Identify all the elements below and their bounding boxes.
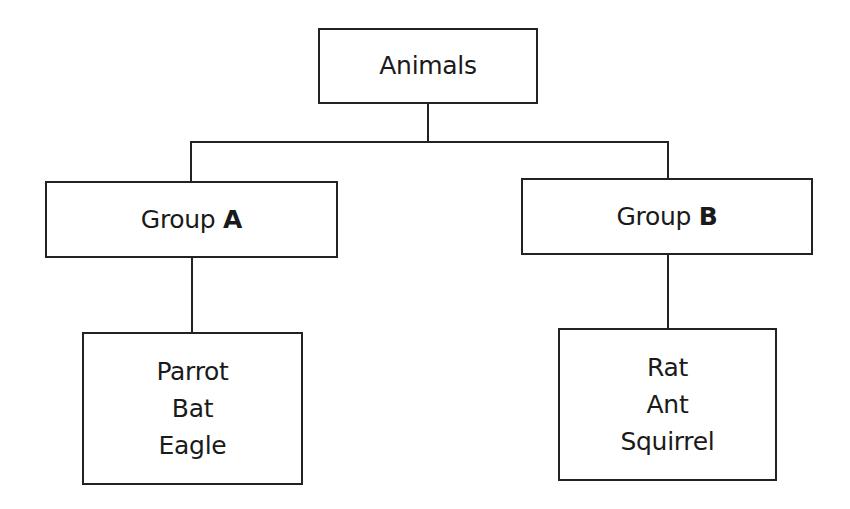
connector-group-b-to-members bbox=[667, 254, 669, 329]
member-item: Bat bbox=[172, 390, 213, 427]
group-a-members-node: Parrot Bat Eagle bbox=[82, 332, 303, 485]
connector-to-group-a bbox=[190, 141, 192, 182]
member-item: Squirrel bbox=[620, 423, 714, 460]
group-a-node: Group A bbox=[45, 181, 338, 258]
group-b-letter: B bbox=[699, 202, 718, 231]
member-item: Eagle bbox=[159, 427, 227, 464]
group-b-members-node: Rat Ant Squirrel bbox=[558, 328, 777, 481]
group-b-node: Group B bbox=[521, 178, 813, 255]
group-b-prefix: Group bbox=[616, 202, 691, 231]
connector-to-group-b bbox=[667, 141, 669, 179]
group-a-label: Group A bbox=[141, 202, 242, 238]
root-node-animals: Animals bbox=[318, 28, 538, 104]
connector-group-a-to-members bbox=[191, 257, 193, 333]
member-item: Parrot bbox=[156, 353, 228, 390]
group-a-prefix: Group bbox=[141, 205, 216, 234]
group-a-letter: A bbox=[223, 205, 242, 234]
member-item: Rat bbox=[647, 349, 688, 386]
group-b-label: Group B bbox=[616, 199, 717, 235]
connector-root-down bbox=[427, 103, 429, 143]
connector-horizontal-branch bbox=[190, 141, 669, 143]
root-label: Animals bbox=[379, 48, 476, 84]
member-item: Ant bbox=[647, 386, 689, 423]
